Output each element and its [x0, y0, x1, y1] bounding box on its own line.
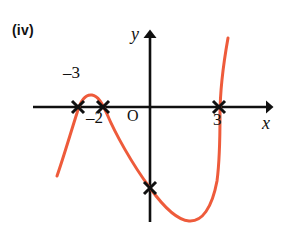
- origin-label: O: [127, 107, 139, 125]
- cubic-curve: [57, 38, 228, 221]
- y-axis-arrow-icon: [144, 30, 157, 39]
- y-axis-label: y: [131, 24, 139, 45]
- graph-plot-area: [0, 0, 287, 230]
- x-axis-arrow-icon: [266, 101, 274, 114]
- x-axis-label: x: [262, 113, 270, 134]
- tick-label-neg3: –3: [63, 63, 80, 83]
- tick-label-neg2: –2: [86, 108, 103, 128]
- tick-label-3: 3: [213, 110, 222, 130]
- figure-container: (iv) y x O: [0, 0, 287, 230]
